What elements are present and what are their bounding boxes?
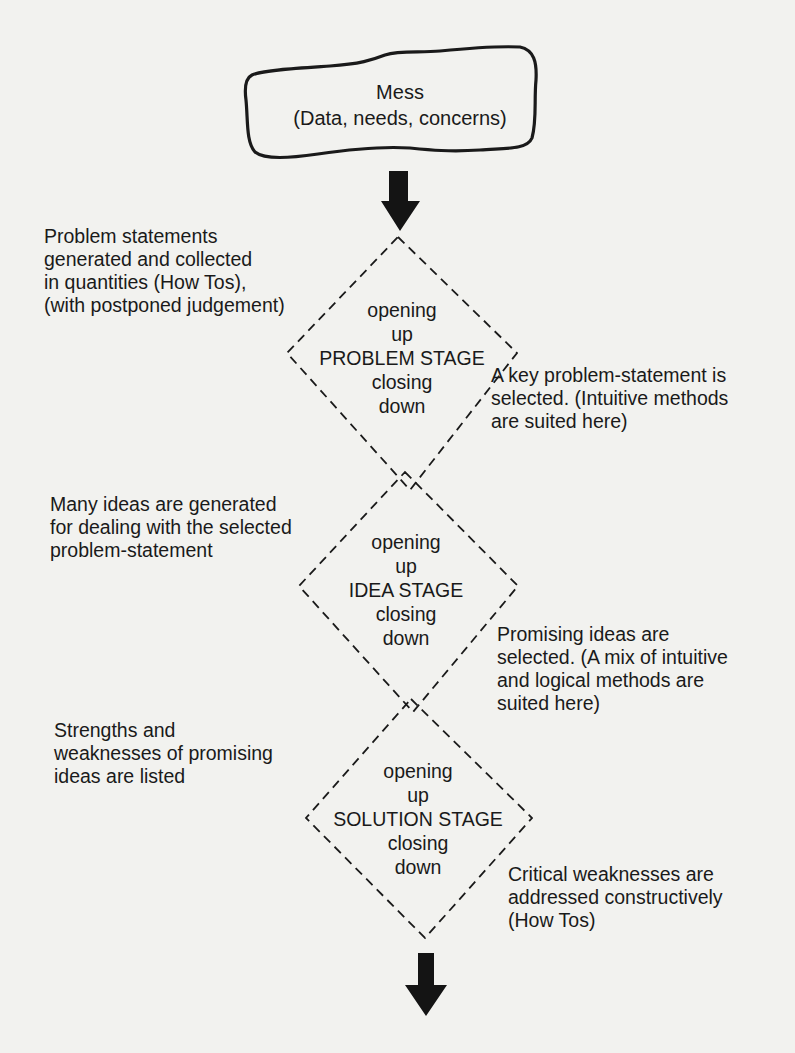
stage-name: PROBLEM STAGE	[302, 346, 502, 370]
solution-stage-label: opening up SOLUTION STAGE closing down	[313, 759, 523, 879]
note-line: selected. (Intuitive methods	[491, 387, 728, 410]
closing-label: closing	[306, 602, 506, 626]
down-arrow-icon	[381, 171, 420, 231]
opening-label: opening	[302, 298, 502, 322]
note-line: Strengths and	[54, 719, 273, 742]
opening-label-up: up	[302, 322, 502, 346]
note-line: and logical methods are	[497, 669, 728, 692]
note-line: A key problem-statement is	[491, 364, 728, 387]
down-arrow-icon	[405, 953, 447, 1016]
opening-label: opening	[306, 530, 506, 554]
closing-label-down: down	[306, 626, 506, 650]
problem-stage-right-note: A key problem-statement is selected. (In…	[491, 364, 728, 433]
stage-name: SOLUTION STAGE	[313, 807, 523, 831]
solution-stage-left-note: Strengths and weaknesses of promising id…	[54, 719, 273, 788]
idea-stage-label: opening up IDEA STAGE closing down	[306, 530, 506, 650]
note-line: addressed constructively	[508, 886, 723, 909]
note-line: (How Tos)	[508, 909, 723, 932]
note-line: in quantities (How Tos),	[44, 271, 285, 294]
mess-subtitle: (Data, needs, concerns)	[253, 105, 547, 131]
note-line: problem-statement	[50, 539, 292, 562]
mess-box: Mess (Data, needs, concerns)	[253, 79, 547, 131]
note-line: generated and collected	[44, 248, 285, 271]
opening-label-up: up	[313, 783, 523, 807]
idea-stage-right-note: Promising ideas are selected. (A mix of …	[497, 623, 728, 715]
note-line: for dealing with the selected	[50, 516, 292, 539]
closing-label-down: down	[313, 855, 523, 879]
problem-stage-left-note: Problem statements generated and collect…	[44, 225, 285, 317]
note-line: Problem statements	[44, 225, 285, 248]
note-line: selected. (A mix of intuitive	[497, 646, 728, 669]
note-line: Promising ideas are	[497, 623, 728, 646]
note-line: weaknesses of promising	[54, 742, 273, 765]
idea-stage-left-note: Many ideas are generated for dealing wit…	[50, 493, 292, 562]
note-line: ideas are listed	[54, 765, 273, 788]
opening-label-up: up	[306, 554, 506, 578]
note-line: Critical weaknesses are	[508, 863, 723, 886]
diagram-page: Mess (Data, needs, concerns) opening up …	[0, 0, 795, 1053]
note-line: are suited here)	[491, 410, 728, 433]
note-line: (with postponed judgement)	[44, 294, 285, 317]
note-line: suited here)	[497, 692, 728, 715]
opening-label: opening	[313, 759, 523, 783]
closing-label: closing	[302, 370, 502, 394]
closing-label: closing	[313, 831, 523, 855]
closing-label-down: down	[302, 394, 502, 418]
note-line: Many ideas are generated	[50, 493, 292, 516]
mess-title: Mess	[253, 79, 547, 105]
stage-name: IDEA STAGE	[306, 578, 506, 602]
problem-stage-label: opening up PROBLEM STAGE closing down	[302, 298, 502, 418]
solution-stage-right-note: Critical weaknesses are addressed constr…	[508, 863, 723, 932]
